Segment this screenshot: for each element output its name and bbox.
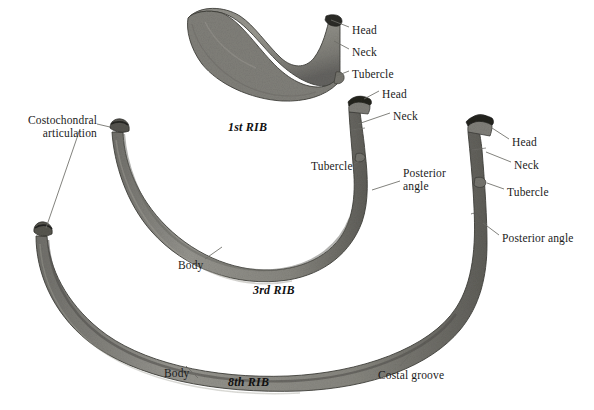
label-rib3-body: Body	[178, 259, 204, 272]
label-rib8-head: Head	[512, 136, 537, 149]
bone-specimens-illustration	[0, 0, 594, 410]
caption-rib-3: 3rd RIB	[253, 283, 295, 298]
label-rib3-costochondral-articulation: Costochondral articulation	[12, 114, 97, 140]
label-rib8-posterior-angle: Posterior angle	[502, 232, 574, 245]
label-rib8-body: Body	[164, 367, 190, 380]
label-rib3-neck: Neck	[393, 110, 418, 123]
label-rib3-posterior-angle: Posterior angle	[403, 167, 461, 193]
label-rib8-tubercle: Tubercle	[507, 186, 549, 199]
caption-rib-1: 1st RIB	[228, 120, 267, 135]
caption-rib-8: 8th RIB	[228, 375, 269, 390]
rib-1-specimen	[188, 8, 345, 101]
label-rib1-head: Head	[352, 24, 377, 37]
label-rib8-costal-groove: Costal groove	[378, 369, 444, 382]
label-rib3-tubercle: Tubercle	[311, 160, 353, 173]
label-rib1-tubercle: Tubercle	[352, 68, 394, 81]
label-rib1-neck: Neck	[352, 46, 377, 59]
rib-8-specimen	[34, 115, 494, 394]
label-rib3-head: Head	[382, 88, 407, 101]
label-rib8-neck: Neck	[514, 159, 539, 172]
rib-anatomy-figure: Head Neck Tubercle 1st RIB Costochondral…	[0, 0, 594, 410]
